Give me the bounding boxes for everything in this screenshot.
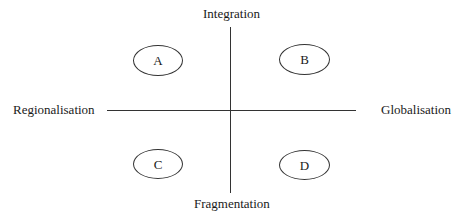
quadrant-d-ellipse: D — [279, 150, 330, 180]
axis-label-right: Globalisation — [381, 102, 451, 118]
quadrant-c-label: C — [154, 158, 163, 171]
axis-label-bottom: Fragmentation — [194, 196, 270, 212]
quadrant-b-label: B — [300, 53, 309, 66]
quadrant-b-ellipse: B — [279, 44, 330, 75]
axis-label-left: Regionalisation — [13, 102, 95, 118]
quadrant-c-ellipse: C — [133, 149, 183, 179]
quadrant-diagram: Integration Fragmentation Regionalisatio… — [0, 0, 459, 224]
quadrant-a-ellipse: A — [133, 45, 183, 76]
axis-label-top: Integration — [203, 6, 260, 22]
quadrant-d-label: D — [300, 159, 309, 172]
quadrant-a-label: A — [153, 54, 162, 67]
horizontal-axis-line — [107, 110, 356, 111]
